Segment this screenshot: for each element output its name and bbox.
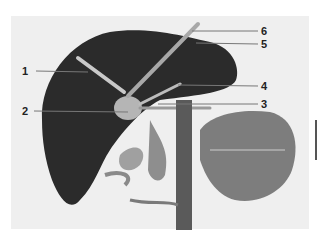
- label-5: 5: [261, 39, 267, 50]
- anatomy-illustration: [0, 0, 318, 247]
- label-1: 1: [22, 66, 28, 77]
- portal-region: [114, 96, 142, 120]
- stomach: [200, 111, 296, 201]
- label-4: 4: [261, 81, 267, 92]
- label-3: 3: [261, 99, 267, 110]
- liver: [42, 30, 237, 204]
- label-6: 6: [261, 26, 267, 37]
- edge-marker: [315, 120, 317, 160]
- label-2: 2: [22, 106, 28, 117]
